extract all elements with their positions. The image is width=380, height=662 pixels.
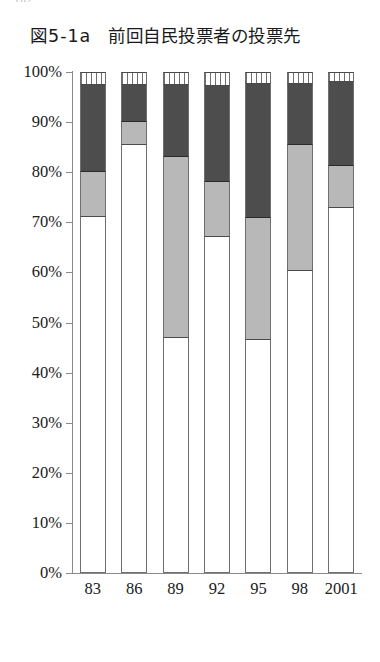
y-tick-20 xyxy=(66,473,72,474)
y-tick-100 xyxy=(66,72,72,73)
bar-83-segment-white xyxy=(80,217,106,573)
y-tick-90 xyxy=(66,122,72,123)
y-tick-30 xyxy=(66,423,72,424)
bar-89 xyxy=(163,72,189,573)
y-tick-40 xyxy=(66,373,72,374)
bar-92 xyxy=(204,72,230,573)
bar-98-segment-dark-gray xyxy=(287,84,313,145)
bar-2001-segment-white xyxy=(328,208,354,573)
bar-92-segment-light-gray xyxy=(204,182,230,237)
bar-2001 xyxy=(328,72,354,573)
bar-83-segment-hatched xyxy=(80,72,106,85)
y-axis-label-80: 80% xyxy=(6,164,62,180)
bar-92-segment-white xyxy=(204,237,230,573)
y-tick-50 xyxy=(66,323,72,324)
y-axis-label-10: 10% xyxy=(6,515,62,531)
x-axis-label-2001: 2001 xyxy=(311,580,371,598)
y-tick-0 xyxy=(66,573,72,574)
y-tick-60 xyxy=(66,272,72,273)
bar-86-segment-dark-gray xyxy=(121,85,147,122)
bar-98 xyxy=(287,72,313,573)
y-tick-70 xyxy=(66,222,72,223)
y-axis-label-20: 20% xyxy=(6,465,62,481)
bar-86-segment-hatched xyxy=(121,72,147,85)
bar-86-segment-light-gray xyxy=(121,122,147,145)
y-axis-label-30: 30% xyxy=(6,415,62,431)
bar-89-segment-light-gray xyxy=(163,157,189,337)
bar-92-segment-dark-gray xyxy=(204,86,230,182)
y-axis-label-90: 90% xyxy=(6,114,62,130)
bar-2001-segment-light-gray xyxy=(328,166,354,208)
bar-89-segment-hatched xyxy=(163,72,189,85)
bar-2001-segment-hatched xyxy=(328,72,354,82)
y-axis-line xyxy=(72,71,73,574)
bar-2001-segment-dark-gray xyxy=(328,82,354,166)
y-axis-label-0: 0% xyxy=(6,565,62,581)
x-axis-line xyxy=(72,573,362,574)
bar-83-segment-dark-gray xyxy=(80,85,106,172)
bar-86 xyxy=(121,72,147,573)
bar-95-segment-dark-gray xyxy=(245,84,271,218)
bar-95-segment-hatched xyxy=(245,72,271,84)
y-axis-label-40: 40% xyxy=(6,365,62,381)
bar-98-segment-light-gray xyxy=(287,145,313,271)
bar-98-segment-hatched xyxy=(287,72,313,84)
bar-92-segment-hatched xyxy=(204,72,230,86)
bar-89-segment-dark-gray xyxy=(163,85,189,157)
y-axis-label-50: 50% xyxy=(6,315,62,331)
bar-83-segment-light-gray xyxy=(80,172,106,217)
y-tick-10 xyxy=(66,523,72,524)
bar-95 xyxy=(245,72,271,573)
bar-98-segment-white xyxy=(287,271,313,573)
bar-83 xyxy=(80,72,106,573)
y-tick-80 xyxy=(66,172,72,173)
bar-86-segment-white xyxy=(121,145,147,573)
bar-95-segment-white xyxy=(245,340,271,573)
y-axis-label-70: 70% xyxy=(6,214,62,230)
bar-89-segment-white xyxy=(163,338,189,573)
y-axis-label-100: 100% xyxy=(6,64,62,80)
y-axis-label-60: 60% xyxy=(6,264,62,280)
stacked-bar-chart: 100%90%80%70%60%50%40%30%20%10%0% 838689… xyxy=(0,0,380,662)
bar-95-segment-light-gray xyxy=(245,218,271,340)
